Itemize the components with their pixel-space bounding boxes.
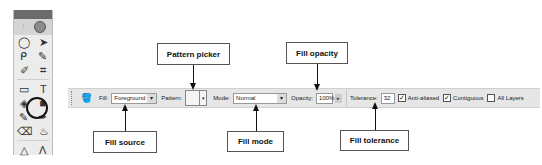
tool-row: ᑭ ✎ [14,49,52,63]
anti-aliased-label: Anti-aliased [408,95,439,101]
fill-source-value: Foreground [114,95,145,101]
opacity-value: 100% [319,95,334,101]
opacity-input[interactable]: 100% [316,93,333,104]
all-layers-checkbox[interactable]: All Layers [487,94,523,102]
pattern-swatch [186,91,200,105]
pen-tool-icon[interactable]: Λ [39,144,46,156]
tools-panel-top: ⁝ [14,19,52,35]
magic-wand-icon[interactable]: ✎ [38,50,47,63]
callout-label: Fill mode [238,137,273,146]
paint-bucket-icon[interactable]: 🪣 [79,93,93,103]
tool-row: ▭ T [14,82,52,96]
screen-mode-icon[interactable] [34,21,46,33]
tool-row: ✐ ⌗ [14,63,52,77]
fill-mode-value: Normal [236,95,255,101]
fill-label: Fill: [99,95,108,101]
callout-line [125,110,126,131]
callout-label: Pattern picker [167,50,220,59]
mode-label: Mode: [213,95,230,101]
arrow-down-icon [314,84,320,91]
callout-fill-mode: Fill mode [227,131,284,152]
empty-checkbox-icon[interactable] [487,94,495,102]
blur-tool-icon[interactable]: △ [20,144,28,157]
callout-fill-source: Fill source [93,131,157,153]
pattern-label: Pattern: [161,95,182,101]
tool-row: ⌫ ♨ [14,124,52,138]
move-tool-icon[interactable]: ➤ [39,36,48,49]
contiguous-label: Contiguous [453,95,483,101]
callout-line [193,65,194,84]
callout-label: Fill opacity [296,49,338,58]
chevron-down-icon: ▾ [147,94,156,103]
chevron-down-icon: ▾ [277,94,286,103]
callout-fill-tolerance: Fill tolerance [340,130,409,151]
divider [17,140,49,141]
tool-options-bar: 🪣 Fill: Foreground ▾ Pattern: ▾ Mode: No… [68,88,540,108]
stamp-icon[interactable]: ♨ [39,125,49,138]
callout-line [317,64,318,85]
opacity-slider-arrow-icon[interactable]: ▸ [335,94,342,103]
drag-handle[interactable] [71,91,75,105]
arrow-down-icon [190,83,196,90]
callout-fill-opacity: Fill opacity [286,42,348,64]
contiguous-checkbox[interactable]: ✓ Contiguous [443,94,483,102]
fill-mode-select[interactable]: Normal ▾ [233,93,287,104]
checkmark-icon[interactable]: ✓ [398,94,406,102]
tolerance-label: Tolerance: [350,95,378,101]
crop-icon[interactable]: ⌗ [40,64,46,77]
quick-selection-icon[interactable]: ✐ [20,64,29,77]
anti-aliased-checkbox[interactable]: ✓ Anti-aliased [398,94,439,102]
eraser-icon[interactable]: ⌫ [17,125,33,138]
type-tool-icon[interactable]: T [40,83,47,95]
all-layers-label: All Layers [497,95,523,101]
tools-panel-header [14,10,52,19]
lasso-icon[interactable]: ᑭ [20,50,27,63]
tool-row: △ Λ [14,143,52,157]
callout-line [256,110,257,131]
divider [346,90,347,106]
opacity-label: Opacity: [291,95,313,101]
tolerance-value: 32 [384,95,391,101]
checkmark-icon[interactable]: ✓ [443,94,451,102]
callout-pattern-picker: Pattern picker [157,43,230,65]
tolerance-input[interactable]: 32 [381,93,395,104]
callout-label: Fill tolerance [350,136,399,145]
divider [17,79,49,80]
fill-source-select[interactable]: Foreground ▾ [111,93,157,104]
quick-mask-icon[interactable]: ⁝ [22,22,25,31]
callout-line [375,108,376,130]
tools-panel: ⁝ ◯ ➤ ᑭ ✎ ✐ ⌗ ▭ T ◈ ■ ✎ ✒ ⌫ ♨ △ Λ [13,10,53,155]
ellipse-marquee-icon[interactable]: ◯ [18,36,30,49]
tool-row: ◯ ➤ [14,35,52,49]
shape-tool-icon[interactable]: ▭ [19,83,29,96]
highlight-circle [26,97,48,119]
pattern-picker[interactable]: ▾ [185,90,207,106]
callout-label: Fill source [105,138,145,147]
chevron-down-icon: ▾ [200,91,206,105]
